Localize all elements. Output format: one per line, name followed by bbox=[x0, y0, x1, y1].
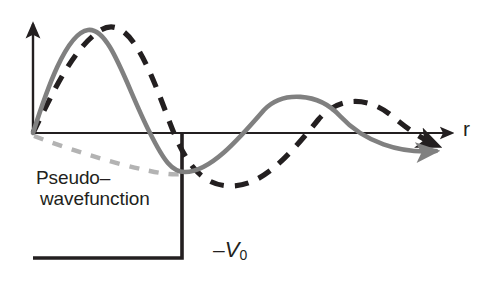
potential-depth-label: –V0 bbox=[213, 238, 247, 264]
potential-depth-symbol: V bbox=[225, 237, 240, 262]
pseudo-wavefunction-label: Pseudo– wavefunction bbox=[36, 167, 150, 210]
r-axis-label: r bbox=[463, 117, 470, 141]
all-electron-wavefunction-curve bbox=[33, 27, 438, 186]
potential-depth-minus-sign: – bbox=[213, 238, 225, 261]
pseudo-wavefunction-label-line2: wavefunction bbox=[40, 188, 150, 209]
pseudo-wavefunction-label-line1: Pseudo– bbox=[36, 167, 110, 188]
pseudopotential-diagram: Pseudo– wavefunction –V0 r bbox=[0, 0, 489, 303]
potential-depth-subscript: 0 bbox=[239, 247, 247, 263]
pseudo-wavefunction-curve bbox=[33, 30, 436, 172]
